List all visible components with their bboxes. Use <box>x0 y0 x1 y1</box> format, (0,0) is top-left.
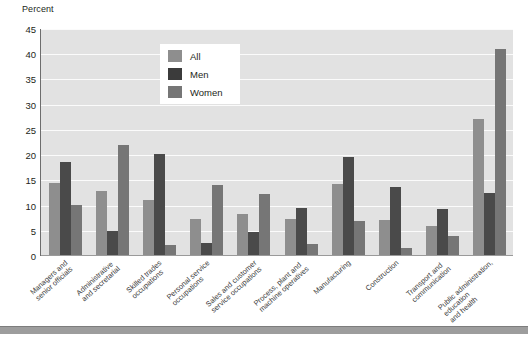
bar-women[interactable] <box>165 245 176 255</box>
y-axis-tick-labels: 454035302520151050 <box>0 29 36 256</box>
x-axis-baseline <box>41 255 513 256</box>
y-tick-label: 15 <box>6 175 36 186</box>
y-tick-label: 35 <box>6 74 36 85</box>
x-tick-cell: Administrativeand secretarial <box>87 257 134 333</box>
bar-all[interactable] <box>473 119 484 255</box>
bar-men[interactable] <box>107 231 118 255</box>
bar-all[interactable] <box>96 191 107 255</box>
bar-all[interactable] <box>285 219 296 255</box>
legend-label-women: Women <box>190 87 223 98</box>
legend-label-all: All <box>190 51 201 62</box>
bar-men[interactable] <box>296 208 307 255</box>
bar-group <box>277 29 324 255</box>
bar-men[interactable] <box>484 193 495 255</box>
bar-men[interactable] <box>343 157 354 255</box>
legend-swatch-men-icon <box>168 68 182 80</box>
legend-swatch-women-icon <box>168 86 182 98</box>
legend-label-men: Men <box>190 69 208 80</box>
bar-women[interactable] <box>307 244 318 255</box>
bar-group <box>419 29 466 255</box>
legend-item-women: Women <box>168 86 233 98</box>
y-axis-title: Percent <box>22 4 54 14</box>
bar-men[interactable] <box>437 209 448 255</box>
bar-men[interactable] <box>248 232 259 255</box>
bar-women[interactable] <box>354 221 365 255</box>
bar-women[interactable] <box>448 236 459 255</box>
bar-all[interactable] <box>143 200 154 255</box>
bar-chart-figure: Percent 454035302520151050 All Men Women… <box>0 0 528 340</box>
bar-all[interactable] <box>237 214 248 255</box>
y-tick-label: 40 <box>6 49 36 60</box>
legend-item-men: Men <box>168 68 233 80</box>
bar-all[interactable] <box>332 184 343 255</box>
y-tick-label: 20 <box>6 150 36 161</box>
bar-women[interactable] <box>259 194 270 255</box>
x-axis-tick-labels: Managers andsenior officialsAdministrati… <box>40 257 513 333</box>
bar-all[interactable] <box>49 183 60 255</box>
bar-women[interactable] <box>118 145 129 255</box>
bar-men[interactable] <box>154 154 165 255</box>
y-tick-label: 30 <box>6 99 36 110</box>
chart-legend: All Men Women <box>160 44 240 104</box>
y-tick-label: 0 <box>6 251 36 262</box>
bar-group <box>89 29 136 255</box>
plot-area <box>40 29 513 256</box>
bar-men[interactable] <box>60 162 71 255</box>
legend-item-all: All <box>168 50 233 62</box>
bar-men[interactable] <box>390 187 401 255</box>
y-tick-label: 10 <box>6 200 36 211</box>
bar-all[interactable] <box>426 226 437 255</box>
legend-swatch-all-icon <box>168 50 182 62</box>
bar-women[interactable] <box>71 205 82 255</box>
bar-men[interactable] <box>201 243 212 255</box>
footer-rule <box>0 326 528 334</box>
bar-groups <box>42 29 513 255</box>
x-tick-cell: Manufacturing <box>324 257 371 333</box>
x-tick-cell: Public administration,educationand healt… <box>466 257 513 333</box>
bar-group <box>466 29 513 255</box>
bar-women[interactable] <box>212 185 223 255</box>
x-tick-label: Managers andsenior officials <box>29 259 75 303</box>
y-tick-label: 25 <box>6 124 36 135</box>
bar-group <box>325 29 372 255</box>
bar-all[interactable] <box>190 219 201 255</box>
bar-all[interactable] <box>379 220 390 255</box>
bar-group <box>372 29 419 255</box>
bar-women[interactable] <box>495 49 506 255</box>
y-tick-label: 45 <box>6 24 36 35</box>
bar-group <box>42 29 89 255</box>
bar-women[interactable] <box>401 248 412 255</box>
y-tick-label: 5 <box>6 225 36 236</box>
